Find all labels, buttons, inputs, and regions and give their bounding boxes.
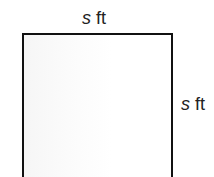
square-shape — [22, 33, 173, 177]
top-side-variable: s — [82, 8, 91, 28]
top-side-unit: ft — [96, 8, 106, 28]
right-side-unit: ft — [195, 94, 205, 114]
right-side-label: s ft — [181, 95, 205, 113]
right-side-variable: s — [181, 94, 190, 114]
top-side-label: s ft — [82, 9, 106, 27]
